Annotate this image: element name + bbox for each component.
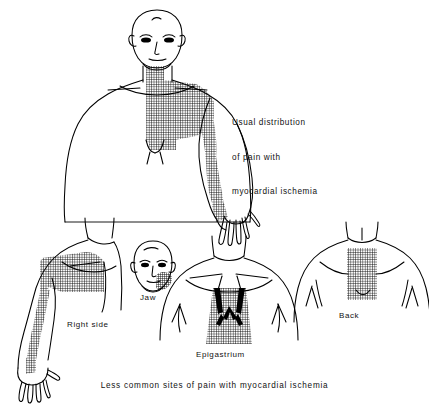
jaw-eye-right xyxy=(158,263,166,267)
epigastrium-pain-shading xyxy=(206,288,252,344)
main-caption-line-1: Usual distribution xyxy=(232,117,318,129)
main-caption: Usual distribution of pain with myocardi… xyxy=(232,94,318,221)
main-caption-line-3: myocardial ischemia xyxy=(232,186,318,198)
panel-label-epigastrium: Epigastrium xyxy=(196,350,245,359)
figure-root: Usual distribution of pain with myocardi… xyxy=(0,0,429,413)
bottom-caption: Less common sites of pain with myocardia… xyxy=(101,381,329,390)
panel-label-back: Back xyxy=(339,311,359,320)
main-eye-right xyxy=(164,37,174,42)
jaw-eye-left xyxy=(141,263,149,267)
main-caption-line-2: of pain with xyxy=(232,152,318,164)
main-eye-left xyxy=(141,37,151,42)
back-pain-shading xyxy=(347,248,377,300)
panel-label-right-side: Right side xyxy=(67,320,109,329)
panel-label-jaw: Jaw xyxy=(140,293,156,302)
